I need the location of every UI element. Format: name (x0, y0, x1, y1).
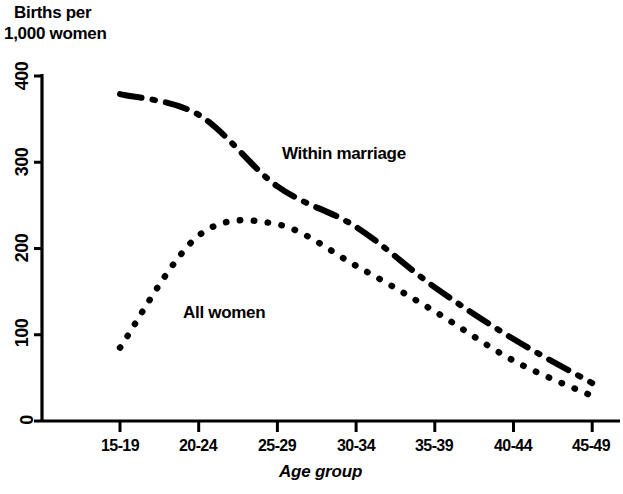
series-line-within-marriage (120, 94, 592, 383)
data-series-layer (120, 94, 592, 396)
axis-lines (34, 74, 620, 432)
x-axis-ticks (120, 421, 592, 432)
births-per-1000-women-chart: Births per 1,000 women 400 300 200 100 0… (0, 0, 623, 494)
series-line-all-women (120, 220, 592, 396)
plot-area (0, 0, 623, 494)
